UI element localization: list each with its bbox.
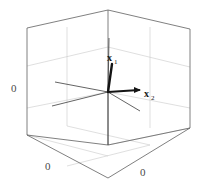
tick-label-depth-axis: 0 [45, 160, 51, 172]
tick-label-horizontal-axis: 0 [140, 166, 146, 178]
vector-x2-label-base: x [144, 88, 149, 99]
plot-canvas: x 1 x 2 0 0 0 [0, 0, 204, 186]
vector-x1-label-base: x [107, 52, 112, 63]
vector-x1-label-subscript: 1 [114, 58, 118, 66]
tick-label-vertical-axis: 0 [11, 82, 17, 94]
vector-x2-label-subscript: 2 [151, 94, 155, 102]
